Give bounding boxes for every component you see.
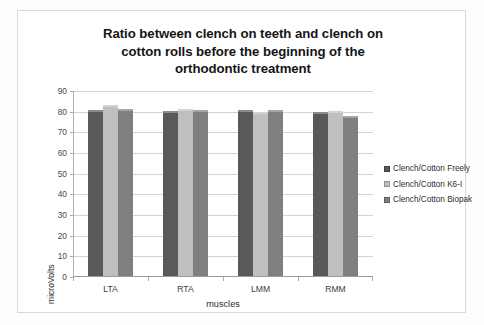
bar-group-bars <box>148 91 223 277</box>
bar-highlight <box>103 105 118 107</box>
bar[interactable] <box>163 111 178 277</box>
y-axis-tick-label: 90 <box>58 86 67 96</box>
x-axis-tick-mark <box>73 277 74 281</box>
bar-highlight <box>328 111 343 113</box>
chart-screenshot: Ratio between clench on teeth and clench… <box>0 0 484 325</box>
bar-highlight <box>268 110 283 112</box>
bar-highlight <box>88 110 103 112</box>
x-axis-tick-mark <box>372 277 373 281</box>
chart-title-line-3: orthodontic treatment <box>58 60 428 78</box>
x-axis-category-label: RTA <box>148 284 223 294</box>
y-axis-tick-label: 20 <box>58 231 67 241</box>
legend-item[interactable]: Clench/Cotton Biopak <box>384 195 484 204</box>
y-axis-tick-label: 30 <box>58 210 67 220</box>
bar-highlight <box>178 109 193 111</box>
bar[interactable] <box>343 116 358 277</box>
legend-swatch-icon <box>384 197 390 203</box>
bar-highlight <box>343 116 358 118</box>
x-axis-category-label: RMM <box>298 284 373 294</box>
bar-highlight <box>163 111 178 113</box>
legend-swatch-icon <box>384 181 390 187</box>
chart-title-line-2: cotton rolls before the beginning of the <box>58 43 428 61</box>
bar-highlight <box>238 110 253 112</box>
bar-highlight <box>118 109 133 111</box>
bar[interactable] <box>328 111 343 277</box>
y-axis-tick-label: 70 <box>58 127 67 137</box>
bar-highlight <box>253 112 268 114</box>
bar-group: RTA <box>148 91 223 277</box>
legend-label: Clench/Cotton Freely <box>393 164 470 173</box>
chart-title: Ratio between clench on teeth and clench… <box>58 25 428 78</box>
bar-group-bars <box>73 91 148 277</box>
legend-swatch-icon <box>384 166 390 172</box>
bar[interactable] <box>178 109 193 277</box>
legend-item[interactable]: Clench/Cotton K6-I <box>384 180 484 189</box>
x-axis-tick-mark <box>223 277 224 281</box>
bar[interactable] <box>238 110 253 277</box>
bar-group-bars <box>298 91 373 277</box>
bar[interactable] <box>118 109 133 277</box>
chart-legend: Clench/Cotton FreelyClench/Cotton K6-ICl… <box>384 164 484 211</box>
y-axis-title-label: microVolts <box>46 264 56 304</box>
x-axis-category-label: LTA <box>73 284 148 294</box>
y-axis-tick-label: 80 <box>58 107 67 117</box>
y-axis-tick-label: 60 <box>58 148 67 158</box>
bar[interactable] <box>88 110 103 277</box>
x-axis-tick-mark <box>298 277 299 281</box>
bar[interactable] <box>253 112 268 277</box>
bar[interactable] <box>313 112 328 277</box>
x-axis-tick-mark <box>148 277 149 281</box>
chart-frame: Ratio between clench on teeth and clench… <box>17 10 466 313</box>
bar[interactable] <box>268 110 283 277</box>
bar[interactable] <box>103 105 118 277</box>
chart-title-line-1: Ratio between clench on teeth and clench… <box>58 25 428 43</box>
x-axis-title: muscles <box>73 299 373 309</box>
y-axis-tick-label: 50 <box>58 169 67 179</box>
bar[interactable] <box>193 110 208 277</box>
plot-area: 0102030405060708090 LTARTALMMRMM <box>73 91 373 277</box>
x-axis-line <box>73 276 373 277</box>
bar-highlight <box>313 112 328 114</box>
bar-group: LTA <box>73 91 148 277</box>
y-axis-tick-label: 0 <box>62 272 67 282</box>
legend-item[interactable]: Clench/Cotton Freely <box>384 164 484 173</box>
y-axis-tick-label: 40 <box>58 189 67 199</box>
legend-label: Clench/Cotton K6-I <box>393 180 462 189</box>
y-axis-tick-label: 10 <box>58 251 67 261</box>
bar-group-bars <box>223 91 298 277</box>
legend-label: Clench/Cotton Biopak <box>393 195 472 204</box>
bar-group: RMM <box>298 91 373 277</box>
bar-highlight <box>193 110 208 112</box>
bar-group: LMM <box>223 91 298 277</box>
x-axis-category-label: LMM <box>223 284 298 294</box>
